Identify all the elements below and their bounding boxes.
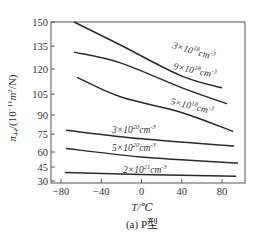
y-tick-label: 30 — [38, 176, 49, 187]
x-tick-label: −40 — [93, 186, 109, 197]
x-tick-label: −80 — [53, 186, 69, 197]
y-tick-label: 135 — [32, 41, 48, 52]
y-tick-label: 60 — [38, 147, 49, 158]
x-tick-label: 0 — [139, 186, 144, 197]
y-tick-label: 75 — [38, 129, 49, 140]
y-tick-label: 45 — [38, 162, 49, 173]
curve-labels: 3×1018cm-39×1018cm-35×1018cm-33×1020cm-3… — [111, 38, 219, 175]
curve-label-2: 9×1018cm-3 — [173, 59, 219, 80]
x-tick-label: 40 — [177, 186, 188, 197]
x-axis-ticks: −80−4004080 — [53, 179, 227, 197]
y-axis-ticks: 1501351201059075604530 — [32, 17, 55, 187]
y-tick-label: 150 — [32, 17, 48, 28]
plot-frame — [51, 22, 245, 183]
y-tick-label: 105 — [32, 89, 48, 100]
curves — [65, 22, 238, 176]
curve-label-1: 3×1018cm-3 — [170, 38, 217, 62]
y-axis-title: π44/(10−11m2/N) — [6, 74, 20, 141]
curve-5 — [66, 148, 238, 163]
x-axis-title: T/℃ — [131, 201, 153, 213]
curve-2 — [74, 52, 227, 104]
curve-label-5: 5×1020cm-3 — [112, 141, 156, 153]
y-tick-label: 90 — [38, 110, 49, 121]
y-tick-label: 120 — [32, 64, 48, 75]
line-chart: 1501351201059075604530 −80−4004080 3×101… — [0, 0, 259, 238]
curve-label-4: 3×1020cm-3 — [111, 123, 156, 135]
curve-label-6: 2×1021cm-3 — [123, 163, 167, 175]
x-tick-label: 80 — [217, 186, 228, 197]
figure-caption: (a) P型 — [126, 217, 158, 231]
